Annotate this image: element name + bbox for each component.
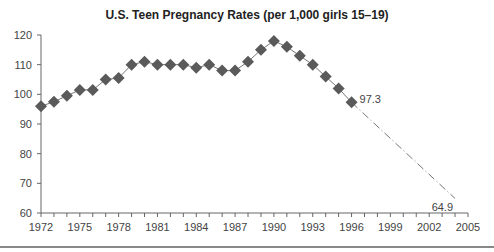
- x-tick-label: 1999: [378, 221, 402, 233]
- data-point-marker: [61, 90, 73, 102]
- data-point-marker: [74, 84, 86, 96]
- data-point-marker: [229, 65, 241, 77]
- data-point-marker: [139, 56, 151, 68]
- x-tick-label: 1987: [223, 221, 247, 233]
- y-tick-label: 90: [20, 118, 32, 130]
- divider: [0, 246, 494, 248]
- data-label-1996: 97.3: [360, 93, 381, 105]
- data-point-marker: [190, 62, 202, 74]
- x-tick-label: 2002: [417, 221, 441, 233]
- data-point-marker: [35, 100, 47, 112]
- x-tick-label: 1990: [262, 221, 286, 233]
- data-point-marker: [100, 74, 112, 86]
- data-point-marker: [151, 59, 163, 71]
- data-label-projection: 64.9: [432, 201, 453, 213]
- data-point-marker: [268, 35, 280, 47]
- x-tick-label: 1978: [106, 221, 130, 233]
- projection-line: [352, 102, 456, 198]
- y-tick-label: 100: [14, 88, 32, 100]
- y-tick-label: 80: [20, 148, 32, 160]
- data-point-marker: [203, 59, 215, 71]
- line-chart: 6070809010011012019721975197819811984198…: [0, 0, 494, 252]
- x-tick-label: 1972: [29, 221, 53, 233]
- data-point-marker: [281, 41, 293, 53]
- y-tick-label: 120: [14, 29, 32, 41]
- y-tick-label: 60: [20, 207, 32, 219]
- data-point-marker: [177, 59, 189, 71]
- y-tick-label: 70: [20, 177, 32, 189]
- x-tick-label: 1996: [339, 221, 363, 233]
- x-tick-label: 1984: [184, 221, 208, 233]
- data-point-marker: [87, 84, 99, 96]
- data-point-marker: [294, 50, 306, 62]
- data-point-marker: [48, 96, 60, 108]
- data-point-marker: [216, 65, 228, 77]
- y-tick-label: 110: [14, 59, 32, 71]
- x-tick-label: 1993: [300, 221, 324, 233]
- x-tick-label: 2005: [456, 221, 480, 233]
- x-tick-label: 1981: [145, 221, 169, 233]
- x-tick-label: 1975: [68, 221, 92, 233]
- data-point-marker: [164, 59, 176, 71]
